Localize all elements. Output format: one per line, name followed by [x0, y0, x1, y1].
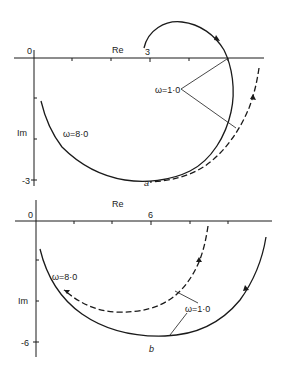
panel-a: 0 Re 3 Im -3 ω=1·0 ω=8·0 a [14, 22, 264, 188]
panel-b: 0 Re 6 Im -6 ω=1·0 ω=8·0 b [15, 199, 272, 357]
x-ticks [72, 58, 228, 62]
leader-line [181, 59, 227, 89]
panel-label-a: a [144, 178, 149, 188]
arrow-icon [214, 35, 220, 41]
origin-label: 0 [27, 46, 32, 56]
nyquist-figure: 0 Re 3 Im -3 ω=1·0 ω=8·0 a [0, 0, 285, 379]
x-tick-label-6: 6 [148, 210, 153, 220]
leader-line [170, 313, 187, 335]
solid-curve-b [40, 237, 266, 336]
omega-low-label: ω=1·0 [185, 304, 210, 314]
panel-label-b: b [149, 344, 154, 354]
dashed-curve-b [64, 226, 208, 312]
omega-low-label: ω=1·0 [155, 85, 180, 95]
origin-label: 0 [28, 210, 33, 220]
y-axis-label: Im [18, 296, 28, 306]
x-axis-label: Re [112, 199, 124, 209]
y-tick-label-neg6: -6 [21, 338, 29, 348]
leader-line [175, 291, 198, 303]
y-axis-label: Im [17, 128, 27, 138]
arrow-icon [250, 94, 256, 100]
leader-line [181, 89, 236, 128]
x-tick-label-3: 3 [145, 47, 150, 57]
omega-high-label: ω=8·0 [52, 272, 77, 282]
solid-curve-a [41, 22, 233, 182]
x-axis-label: Re [112, 45, 124, 55]
y-tick-label-neg3: -3 [22, 176, 30, 186]
omega-high-label: ω=8·0 [63, 129, 88, 139]
x-ticks [74, 221, 228, 225]
